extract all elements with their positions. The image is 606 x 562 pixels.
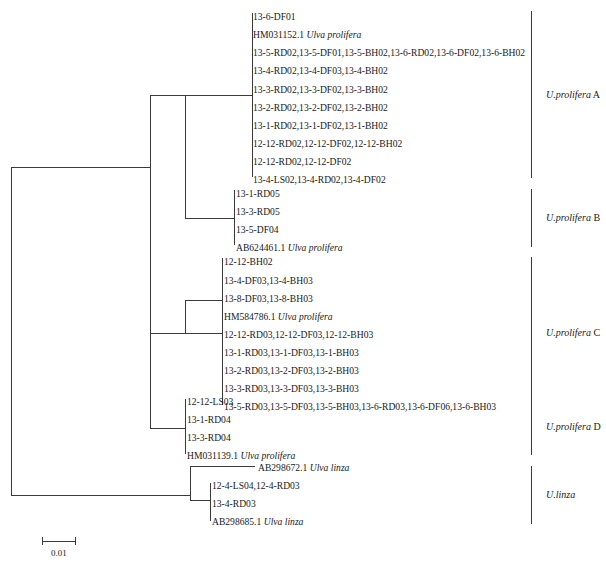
leaf-label: 13-8-DF03,13-8-BH03 [224, 294, 313, 304]
leaf-accession-or-sample: 13-3-RD05 [236, 206, 280, 217]
leaf-label: 13-2-RD02,13-2-DF02,13-2-BH02 [253, 103, 388, 113]
leaf-label: 13-5-RD02,13-5-DF01,13-5-BH02,13-6-RD02,… [253, 48, 525, 58]
leaf-label: 13-5-DF04 [236, 225, 279, 235]
leaf-species-name: Ulva linza [310, 462, 350, 473]
leaf-accession-or-sample: 13-3-RD04 [187, 432, 231, 443]
leaf-label: 12-12-RD02,12-12-DF02,12-12-BH02 [253, 139, 402, 149]
leaf-accession-or-sample: 13-1-RD03,13-1-DF03,13-1-BH03 [224, 347, 359, 358]
leaf-species-name: Ulva prolifera [306, 29, 361, 40]
clade-label-cA: U.prolifera A [546, 90, 600, 100]
leaf-label: HM031139.1 Ulva prolifera [187, 451, 295, 461]
leaf-label: AB624461.1 Ulva prolifera [236, 243, 343, 253]
clade-genus-name: U.prolifera [546, 212, 591, 223]
leaf-accession-or-sample: 13-1-RD04 [187, 414, 231, 425]
leaf-label: 12-12-RD03,12-12-DF03,12-12-BH03 [224, 330, 373, 340]
leaf-accession-or-sample: 13-4-LS02,13-4-RD02,13-4-DF02 [253, 174, 386, 185]
leaf-label: 13-3-RD05 [236, 207, 280, 217]
leaf-label: 13-3-RD04 [187, 433, 231, 443]
leaf-label: 13-5-RD03,13-5-DF03,13-5-BH03,13-6-RD03,… [224, 402, 496, 412]
leaf-label: 13-4-DF03,13-4-BH03 [224, 276, 313, 286]
clade-suffix: A [591, 89, 600, 100]
leaf-species-name: Ulva prolifera [240, 450, 295, 461]
leaf-label: HM584786.1 Ulva prolifera [224, 312, 333, 322]
clade-label-cL: U.linza [546, 490, 575, 500]
leaf-accession-or-sample: 12-12-RD02,12-12-DF02,12-12-BH02 [253, 138, 402, 149]
leaf-accession-or-sample: 12-12-BH02 [224, 256, 273, 267]
leaf-species-name: Ulva prolifera [278, 311, 333, 322]
leaf-accession-or-sample: 13-4-RD02,13-4-DF03,13-4-BH02 [253, 65, 388, 76]
scale-bar-label: 0.01 [51, 549, 67, 558]
clade-genus-name: U.prolifera [546, 327, 591, 338]
leaf-accession-or-sample: 13-5-RD02,13-5-DF01,13-5-BH02,13-6-RD02,… [253, 47, 525, 58]
leaf-accession-or-sample: 12-4-LS04,12-4-RD03 [212, 480, 300, 491]
leaf-label: 13-3-RD03,13-3-DF03,13-3-BH03 [224, 384, 359, 394]
leaf-accession-or-sample: HM031152.1 [253, 29, 306, 40]
phylogenetic-tree-figure: 13-6-DF01HM031152.1 Ulva prolifera13-5-R… [0, 0, 606, 562]
leaf-accession-or-sample: AB298685.1 [212, 516, 264, 527]
leaf-species-name: Ulva linza [264, 516, 304, 527]
leaf-accession-or-sample: AB298672.1 [258, 462, 310, 473]
leaf-accession-or-sample: 13-5-RD03,13-5-DF03,13-5-BH03,13-6-RD03,… [224, 401, 496, 412]
clade-label-cD: U.prolifera D [546, 422, 601, 432]
leaf-label: 12-12-LS03 [187, 397, 233, 407]
leaf-label: 13-1-RD02,13-1-DF02,13-1-BH02 [253, 121, 388, 131]
leaf-accession-or-sample: 12-12-LS03 [187, 396, 233, 407]
leaf-accession-or-sample: 13-1-RD02,13-1-DF02,13-1-BH02 [253, 120, 388, 131]
leaf-label: AB298672.1 Ulva linza [258, 463, 349, 473]
leaf-accession-or-sample: 13-1-RD05 [236, 188, 280, 199]
leaf-label: 13-4-RD03 [212, 499, 256, 509]
leaf-accession-or-sample: 13-6-DF01 [253, 11, 296, 22]
leaf-accession-or-sample: AB624461.1 [236, 242, 288, 253]
clade-genus-name: U.prolifera [546, 421, 591, 432]
leaf-label: 13-6-DF01 [253, 12, 296, 22]
leaf-label: 12-12-RD02,12-12-DF02 [253, 157, 351, 167]
leaf-accession-or-sample: 13-8-DF03,13-8-BH03 [224, 293, 313, 304]
leaf-accession-or-sample: 12-12-RD03,12-12-DF03,12-12-BH03 [224, 329, 373, 340]
leaf-label: HM031152.1 Ulva prolifera [253, 30, 361, 40]
leaf-accession-or-sample: 13-3-RD03,13-3-DF03,13-3-BH03 [224, 383, 359, 394]
leaf-accession-or-sample: 13-4-DF03,13-4-BH03 [224, 275, 313, 286]
leaf-accession-or-sample: 13-4-RD03 [212, 498, 256, 509]
leaf-label: 13-1-RD05 [236, 189, 280, 199]
leaf-label: 13-3-RD02,13-3-DF02,13-3-BH02 [253, 85, 388, 95]
leaf-accession-or-sample: HM031139.1 [187, 450, 240, 461]
leaf-accession-or-sample: 12-12-RD02,12-12-DF02 [253, 156, 351, 167]
leaf-accession-or-sample: HM584786.1 [224, 311, 278, 322]
leaf-species-name: Ulva prolifera [288, 242, 343, 253]
leaf-label: 12-12-BH02 [224, 257, 273, 267]
clade-label-cB: U.prolifera B [546, 213, 600, 223]
leaf-label: AB298685.1 Ulva linza [212, 517, 303, 527]
clade-suffix: D [591, 421, 601, 432]
leaf-accession-or-sample: 13-2-RD03,13-2-DF03,13-2-BH03 [224, 365, 359, 376]
clade-label-cC: U.prolifera C [546, 328, 600, 338]
clade-suffix: C [591, 327, 600, 338]
leaf-label: 13-1-RD04 [187, 415, 231, 425]
clade-genus-name: U.linza [546, 489, 575, 500]
leaf-accession-or-sample: 13-3-RD02,13-3-DF02,13-3-BH02 [253, 84, 388, 95]
leaf-accession-or-sample: 13-5-DF04 [236, 224, 279, 235]
clade-suffix: B [591, 212, 600, 223]
leaf-accession-or-sample: 13-2-RD02,13-2-DF02,13-2-BH02 [253, 102, 388, 113]
clade-genus-name: U.prolifera [546, 89, 591, 100]
leaf-label: 13-2-RD03,13-2-DF03,13-2-BH03 [224, 366, 359, 376]
leaf-label: 12-4-LS04,12-4-RD03 [212, 481, 300, 491]
leaf-label: 13-4-RD02,13-4-DF03,13-4-BH02 [253, 66, 388, 76]
leaf-label: 13-1-RD03,13-1-DF03,13-1-BH03 [224, 348, 359, 358]
leaf-label: 13-4-LS02,13-4-RD02,13-4-DF02 [253, 175, 386, 185]
